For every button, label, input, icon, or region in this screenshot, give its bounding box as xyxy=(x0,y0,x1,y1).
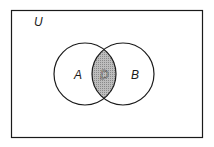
set-a-label: A xyxy=(73,68,82,82)
universe-label: U xyxy=(34,15,43,29)
intersection-label: D xyxy=(100,68,109,82)
set-b-label: B xyxy=(131,68,139,82)
venn-diagram: U A D B xyxy=(0,0,214,147)
